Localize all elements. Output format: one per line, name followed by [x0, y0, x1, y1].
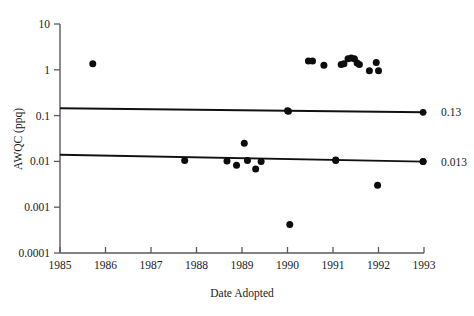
- data-point: [356, 61, 363, 68]
- data-point: [223, 158, 230, 165]
- x-tick-label: 1988: [185, 259, 208, 271]
- y-tick-label: 0.0001: [18, 247, 50, 259]
- trend-line-endpoint-marker: [420, 109, 427, 116]
- data-point: [89, 60, 96, 67]
- scatter-chart-figure: 0.00010.0010.010.1110 AWQC (ppq) 1985198…: [0, 0, 474, 316]
- trend-line-value-label: 0.013: [441, 156, 467, 168]
- data-point: [375, 67, 382, 74]
- x-tick-label: 1989: [231, 259, 254, 271]
- data-point: [309, 58, 316, 65]
- y-tick-label: 1: [44, 64, 50, 76]
- data-point: [373, 59, 380, 66]
- data-point: [320, 62, 327, 69]
- x-tick-label: 1985: [49, 259, 72, 271]
- data-point: [286, 221, 293, 228]
- y-tick-label: 0.01: [30, 155, 50, 167]
- data-point: [252, 166, 259, 173]
- data-point: [241, 140, 248, 147]
- data-point: [258, 158, 265, 165]
- x-tick-label: 1987: [140, 259, 163, 271]
- data-point: [366, 67, 373, 74]
- x-tick-labels: 198519861987198819891990199119921993: [49, 259, 436, 271]
- x-tick-label: 1991: [322, 259, 345, 271]
- data-point: [332, 157, 339, 164]
- data-point: [420, 158, 427, 165]
- data-point: [374, 182, 381, 189]
- trend-line-value-label: 0.13: [441, 106, 461, 118]
- x-tick-label: 1990: [276, 259, 299, 271]
- chart-canvas: 0.00010.0010.010.1110 AWQC (ppq) 1985198…: [0, 0, 474, 316]
- data-point: [233, 162, 240, 169]
- y-axis-title: AWQC (ppq): [12, 108, 25, 170]
- x-tick-label: 1992: [367, 259, 390, 271]
- y-tick-label: 0.001: [24, 201, 50, 213]
- data-point: [244, 157, 251, 164]
- y-tick-label: 0.1: [36, 110, 51, 122]
- x-tick-label: 1993: [413, 259, 436, 271]
- x-tick-label: 1986: [94, 259, 117, 271]
- data-point: [181, 157, 188, 164]
- y-tick-label: 10: [39, 18, 51, 30]
- data-point: [285, 108, 292, 115]
- x-axis-title: Date Adopted: [210, 287, 274, 300]
